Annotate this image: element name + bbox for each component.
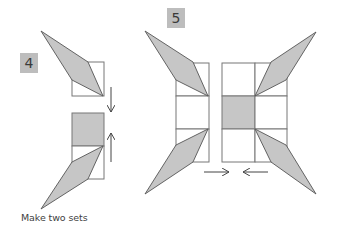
- white-square: [176, 96, 209, 129]
- step-5-left-column: [145, 31, 209, 194]
- caption-text: Make two sets: [21, 212, 88, 223]
- step-5-diagram: [145, 31, 316, 194]
- step-4-top-unit: [41, 31, 104, 96]
- white-square: [222, 63, 255, 96]
- step-5-right-block: [222, 32, 316, 194]
- shaded-square: [72, 113, 104, 146]
- white-square: [255, 96, 287, 129]
- step-4-diagram: [41, 31, 111, 209]
- step-4-bottom-unit: [41, 113, 104, 209]
- white-square: [222, 129, 255, 162]
- shaded-square: [222, 96, 255, 129]
- quilt-block-diagram: [0, 0, 340, 233]
